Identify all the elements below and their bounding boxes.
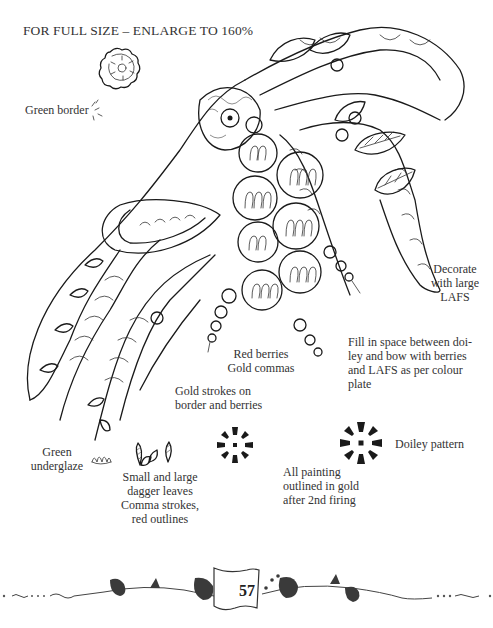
label-line: after 2nd firing xyxy=(283,493,359,507)
label-gold-strokes: Gold strokes on border and berries xyxy=(175,384,262,412)
label-line: Small and large xyxy=(120,470,200,484)
label-red-berries: Red berries Gold commas xyxy=(226,347,296,375)
label-line: ley and bow with berries xyxy=(348,349,472,363)
label-line: and LAFS as per colour xyxy=(348,363,472,377)
label-fill-space: Fill in space between doi- ley and bow w… xyxy=(348,335,472,391)
green-border-stroke-icon xyxy=(92,100,102,120)
label-line: Fill in space between doi- xyxy=(348,335,472,349)
label-doiley-pattern: Doiley pattern xyxy=(395,437,464,451)
label-line: Green xyxy=(28,445,86,459)
label-all-painting: All painting outlined in gold after 2nd … xyxy=(283,465,359,507)
bow-and-berries-illustration xyxy=(0,0,493,628)
label-line: outlined in gold xyxy=(283,479,359,493)
berry-cluster xyxy=(151,59,360,356)
bow-ribbon-right xyxy=(245,27,464,295)
label-line: underglaze xyxy=(28,459,86,473)
bow-knot xyxy=(199,88,262,150)
green-underglaze-swirl-icon xyxy=(92,457,111,464)
label-dagger-leaves: Small and large dagger leaves Comma stro… xyxy=(120,470,200,526)
page-number: 57 xyxy=(232,582,262,600)
label-line: LAFS xyxy=(430,290,480,304)
label-green-underglaze: Green underglaze xyxy=(28,445,86,473)
label-line: Gold commas xyxy=(226,361,296,375)
border-flower-icon xyxy=(99,48,140,88)
dagger-leaves-icon xyxy=(136,442,171,465)
label-decorate-lafs: Decorate with large LAFS xyxy=(430,262,480,304)
label-line: Decorate xyxy=(430,262,480,276)
doiley-pattern-small-icon xyxy=(217,427,253,463)
label-line: All painting xyxy=(283,465,359,479)
label-green-border: Green border xyxy=(25,103,89,117)
label-line: Comma strokes, xyxy=(120,498,200,512)
doiley-pattern-large-icon xyxy=(340,422,382,464)
label-line: dagger leaves xyxy=(120,484,200,498)
label-line: plate xyxy=(348,377,472,391)
label-line: Red berries xyxy=(226,347,296,361)
label-line: with large xyxy=(430,276,480,290)
label-line: border and berries xyxy=(175,398,262,412)
label-line: red outlines xyxy=(120,512,200,526)
label-line: Gold strokes on xyxy=(175,384,262,398)
